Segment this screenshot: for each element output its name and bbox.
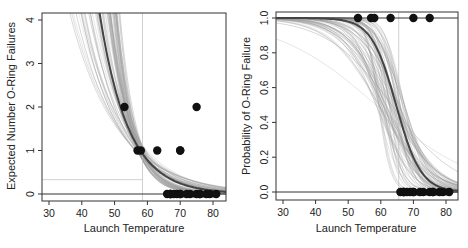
y-tick-label: 1.0 — [258, 11, 270, 26]
x-tick-label: 30 — [43, 207, 55, 219]
left-fitted-curve — [42, 0, 226, 192]
data-point — [426, 14, 434, 22]
data-point — [386, 14, 394, 22]
figure: 304050607080 01234 Launch Temperature Ex… — [0, 0, 468, 248]
x-tick-label: 40 — [76, 207, 88, 219]
y-tick-label: 0 — [24, 191, 36, 197]
x-tick-label: 30 — [277, 206, 289, 218]
y-tick-label: 0.4 — [258, 115, 270, 130]
x-tick-label: 80 — [440, 206, 452, 218]
x-tick-label: 80 — [207, 207, 219, 219]
data-point — [153, 146, 161, 154]
y-tick-label: 1 — [24, 147, 36, 153]
right-y-axis: 0.00.20.40.60.81.0 — [258, 11, 276, 200]
right-posterior-draws — [277, 18, 460, 192]
data-point — [120, 103, 128, 111]
left-y-axis-label: Expected Number O-Ring Failures — [5, 21, 17, 190]
data-point — [354, 14, 362, 22]
x-tick-label: 50 — [109, 207, 121, 219]
x-tick-label: 70 — [408, 206, 420, 218]
y-tick-label: 0.0 — [258, 185, 270, 200]
left-y-axis: 01234 — [24, 17, 42, 197]
data-point — [137, 146, 145, 154]
data-point — [370, 14, 378, 22]
data-point — [176, 146, 184, 154]
y-tick-label: 3 — [24, 60, 36, 66]
left-posterior-draws — [42, 0, 226, 194]
data-point — [409, 14, 417, 22]
y-tick-label: 0.8 — [258, 45, 270, 60]
y-tick-label: 4 — [24, 17, 36, 23]
x-tick-label: 50 — [342, 206, 354, 218]
left-panel: 304050607080 01234 Launch Temperature Ex… — [5, 0, 226, 234]
figure-canvas: 304050607080 01234 Launch Temperature Ex… — [0, 0, 468, 248]
y-tick-label: 0.6 — [258, 80, 270, 95]
right-x-axis-label: Launch Temperature — [316, 222, 417, 234]
y-tick-label: 0.2 — [258, 150, 270, 165]
x-tick-label: 40 — [310, 206, 322, 218]
x-tick-label: 60 — [142, 207, 154, 219]
left-x-axis: 304050607080 — [43, 201, 219, 219]
right-y-axis-label: Probability of O-Ring Failure — [240, 37, 252, 175]
data-point — [192, 103, 200, 111]
right-panel: 304050607080 0.00.20.40.60.81.0 Launch T… — [240, 11, 459, 234]
x-tick-label: 60 — [375, 206, 387, 218]
left-x-axis-label: Launch Temperature — [84, 222, 185, 234]
right-x-axis: 304050607080 — [277, 200, 452, 218]
y-tick-label: 2 — [24, 104, 36, 110]
x-tick-label: 70 — [174, 207, 186, 219]
